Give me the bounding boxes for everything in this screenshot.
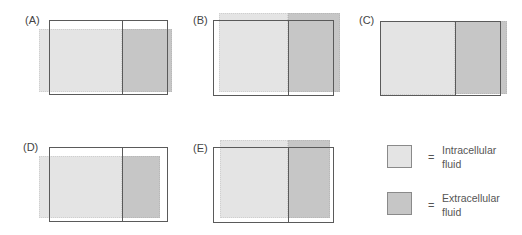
panel-b-label: (B) <box>193 15 208 26</box>
intracellular-label-line1: Intracellular <box>442 143 522 157</box>
extracellular-label-line1: Extracellular <box>442 191 522 205</box>
extracellular-label: Extracellular fluid <box>442 191 522 219</box>
intracellular-label: Intracellular fluid <box>442 143 522 171</box>
panel-a-divider <box>122 20 123 95</box>
extracellular-label-line2: fluid <box>442 205 522 219</box>
intracellular-label-line2: fluid <box>442 157 522 171</box>
panel-e-outline <box>213 147 334 223</box>
panel-e-divider <box>288 147 289 223</box>
equals-sign: = <box>428 199 434 211</box>
panel-d-label: (D) <box>23 142 38 153</box>
panel-d-outline <box>49 147 168 222</box>
panel-b-divider <box>288 20 289 96</box>
panel-c-label: (C) <box>359 15 374 26</box>
panel-c-outline <box>380 21 501 96</box>
panel-b-outline <box>213 20 334 96</box>
extracellular-swatch <box>387 192 412 215</box>
intracellular-swatch <box>387 145 412 168</box>
panel-e-label: (E) <box>193 143 208 154</box>
panel-c-divider <box>455 21 456 96</box>
panel-d-divider <box>122 147 123 222</box>
panel-a-label: (A) <box>25 15 40 26</box>
equals-sign: = <box>428 151 434 163</box>
panel-a-outline <box>49 20 168 95</box>
